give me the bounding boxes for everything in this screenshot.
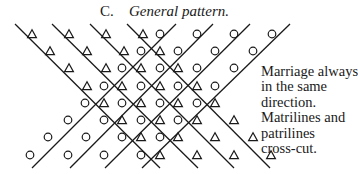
- male-triangle-icon: [139, 30, 148, 38]
- female-circle-icon: [249, 47, 257, 55]
- male-triangle-icon: [120, 47, 129, 55]
- female-circle-icon: [82, 133, 90, 141]
- caption-line: Matrilines and: [261, 110, 358, 125]
- male-triangle-icon: [137, 64, 146, 72]
- female-circle-icon: [64, 116, 72, 124]
- ascending-lineage-line: [105, 24, 250, 168]
- female-circle-icon: [137, 47, 145, 55]
- male-triangle-icon: [65, 64, 74, 72]
- male-triangle-icon: [156, 82, 165, 90]
- male-triangle-icon: [102, 30, 111, 38]
- male-triangle-icon: [118, 82, 127, 90]
- male-triangle-icon: [46, 47, 55, 55]
- figure-caption: Marriage always in the same direction. M…: [261, 64, 358, 156]
- caption-line: Marriage always: [261, 64, 358, 79]
- female-circle-icon: [118, 133, 126, 141]
- male-triangle-icon: [83, 82, 92, 90]
- female-circle-icon: [81, 99, 89, 107]
- male-triangle-icon: [137, 133, 146, 141]
- female-circle-icon: [156, 99, 164, 107]
- ascending-lineage-line: [32, 24, 176, 168]
- female-circle-icon: [26, 151, 34, 159]
- male-triangle-icon: [65, 30, 74, 38]
- male-triangle-icon: [118, 116, 127, 124]
- female-circle-icon: [156, 133, 164, 141]
- female-circle-icon: [174, 116, 182, 124]
- female-circle-icon: [100, 82, 108, 90]
- male-triangle-icon: [174, 99, 183, 107]
- female-circle-icon: [174, 47, 182, 55]
- female-circle-icon: [193, 30, 201, 38]
- male-triangle-icon: [193, 151, 202, 159]
- female-circle-icon: [44, 133, 52, 141]
- caption-line: direction.: [261, 95, 358, 110]
- descending-lineage-line: [90, 24, 234, 168]
- female-circle-icon: [230, 64, 238, 72]
- male-triangle-icon: [193, 82, 202, 90]
- female-circle-icon: [100, 151, 108, 159]
- female-circle-icon: [268, 30, 276, 38]
- male-triangle-icon: [230, 116, 239, 124]
- descending-lineage-line: [52, 24, 198, 168]
- male-triangle-icon: [102, 64, 111, 72]
- male-triangle-icon: [28, 30, 37, 38]
- female-circle-icon: [118, 64, 126, 72]
- kinship-diagram: C. General pattern. Marriage always in t…: [0, 0, 358, 174]
- male-triangle-icon: [156, 47, 165, 55]
- caption-line: in the same: [261, 79, 358, 94]
- lineage-lines: [15, 24, 290, 168]
- male-triangle-icon: [249, 133, 258, 141]
- female-circle-icon: [193, 99, 201, 107]
- female-circle-icon: [156, 64, 164, 72]
- female-circle-icon: [156, 30, 164, 38]
- caption-line: cross-cut.: [261, 141, 358, 156]
- female-circle-icon: [137, 82, 145, 90]
- female-circle-icon: [137, 116, 145, 124]
- male-triangle-icon: [211, 133, 220, 141]
- male-triangle-icon: [156, 151, 165, 159]
- female-circle-icon: [100, 116, 108, 124]
- female-circle-icon: [211, 47, 219, 55]
- female-circle-icon: [118, 99, 126, 107]
- female-circle-icon: [174, 82, 182, 90]
- ascending-lineage-line: [70, 24, 213, 168]
- descending-lineage-line: [127, 24, 270, 168]
- descending-lineage-line: [15, 24, 160, 168]
- male-triangle-icon: [83, 47, 92, 55]
- male-triangle-icon: [230, 151, 239, 159]
- male-triangle-icon: [174, 64, 183, 72]
- female-circle-icon: [211, 82, 219, 90]
- female-circle-icon: [64, 151, 72, 159]
- female-circle-icon: [230, 30, 238, 38]
- caption-line: patrilines: [261, 126, 358, 141]
- female-circle-icon: [137, 151, 145, 159]
- female-circle-icon: [193, 64, 201, 72]
